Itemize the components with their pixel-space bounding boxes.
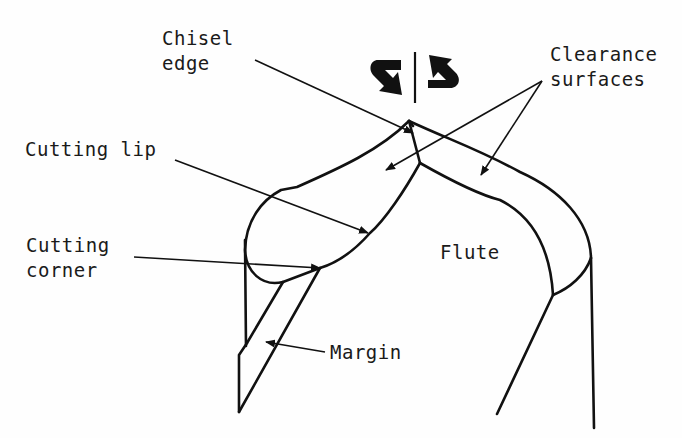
rotation-direction-icon	[371, 52, 459, 103]
right-body-edge	[591, 258, 594, 428]
label-cutting-corner: Cutting corner	[26, 233, 110, 283]
left-body-edge	[245, 240, 246, 346]
flute-edge	[420, 163, 553, 295]
right-margin-arc	[553, 258, 591, 295]
drill-point-diagram: Chisel edge Clearance surfaces Cutting l…	[0, 0, 682, 438]
cutting-lip	[320, 163, 420, 268]
margin-edge-inner	[247, 282, 283, 343]
flute-lower-edge	[497, 295, 553, 414]
label-chisel-edge: Chisel edge	[162, 26, 234, 76]
leader-chisel-edge	[255, 60, 413, 133]
label-clearance-surfaces: Clearance surfaces	[550, 42, 657, 92]
leader-clearance-right	[481, 81, 542, 175]
leader-cutting-lip	[175, 160, 368, 233]
leader-cutting-corner	[134, 257, 320, 268]
label-cutting-lip: Cutting lip	[25, 137, 156, 162]
label-margin: Margin	[330, 340, 402, 365]
left-clearance-outer-edge	[245, 121, 409, 283]
label-flute: Flute	[440, 240, 500, 265]
